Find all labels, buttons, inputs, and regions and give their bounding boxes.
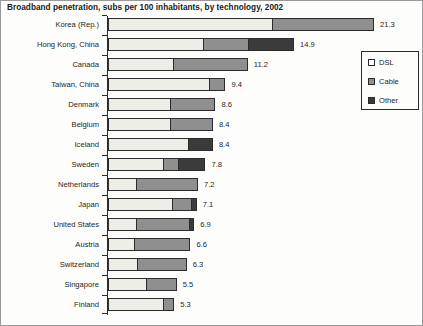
stacked-bar [108, 18, 374, 31]
category-label-netherlands: Netherlands [58, 181, 99, 189]
category-label-korea-rep: Korea (Rep.) [56, 21, 99, 29]
axis-tick [102, 75, 107, 76]
chart-bar-row: Korea (Rep.)21.3 [1, 18, 423, 31]
category-label-iceland: Iceland [75, 141, 100, 149]
bar-value-label: 21.3 [380, 21, 395, 29]
bar-value-label: 9.4 [231, 81, 242, 89]
category-label-switzerland: Switzerland [60, 261, 99, 269]
stacked-bar [108, 258, 187, 271]
chart-bar-row: Austria6.6 [1, 238, 423, 251]
bar-segment-cable [136, 179, 197, 190]
axis-tick [102, 95, 107, 96]
bar-value-label: 6.3 [193, 261, 204, 269]
bar-segment-other [188, 139, 212, 150]
bar-value-label: 6.9 [200, 221, 211, 229]
legend-swatch-cable-icon [368, 78, 375, 85]
stacked-bar [108, 158, 205, 171]
chart-bar-row: Switzerland6.3 [1, 258, 423, 271]
bar-value-label: 8.6 [221, 101, 232, 109]
bar-value-label: 5.5 [183, 281, 194, 289]
bar-value-label: 8.4 [219, 141, 230, 149]
bar-segment-cable [172, 199, 191, 210]
chart-bar-row: Belgium8.4 [1, 118, 423, 131]
axis-tick [102, 215, 107, 216]
stacked-bar [108, 298, 174, 311]
axis-tick [102, 255, 107, 256]
stacked-bar [108, 178, 198, 191]
bar-value-label: 6.6 [196, 241, 207, 249]
legend-label: Cable [379, 78, 399, 86]
axis-tick [102, 35, 107, 36]
bar-segment-other [248, 39, 293, 50]
stacked-bar [108, 238, 190, 251]
legend-label: DSL [379, 59, 394, 67]
legend-swatch-dsl-icon [368, 59, 375, 66]
axis-tick [102, 235, 107, 236]
stacked-bar [108, 278, 177, 291]
bar-value-label: 14.9 [300, 41, 315, 49]
category-label-japan: Japan [78, 201, 99, 209]
bar-segment-dsl [109, 19, 272, 30]
legend-swatch-other-icon [368, 97, 375, 104]
bar-segment-cable [134, 239, 189, 250]
bar-segment-dsl [109, 39, 203, 50]
bar-segment-dsl [109, 239, 134, 250]
stacked-bar [108, 78, 225, 91]
chart-legend: DSLCableOther [361, 51, 419, 110]
category-label-singapore: Singapore [64, 281, 99, 289]
bar-segment-dsl [109, 99, 170, 110]
bar-segment-cable [170, 119, 212, 130]
chart-bar-row: Singapore5.5 [1, 278, 423, 291]
chart-bar-row: Taiwan, China9.4 [1, 78, 423, 91]
axis-tick [102, 155, 107, 156]
legend-label: Other [379, 97, 398, 105]
bar-segment-other [189, 219, 194, 230]
category-label-canada: Canada [72, 61, 99, 69]
chart-bar-row: Sweden7.8 [1, 158, 423, 171]
chart-bar-row: Finland5.3 [1, 298, 423, 311]
legend-item-cable[interactable]: Cable [368, 78, 399, 86]
stacked-bar [108, 218, 194, 231]
category-label-hong-kong-china: Hong Kong, China [37, 41, 99, 49]
stacked-bar [108, 198, 197, 211]
category-label-taiwan-china: Taiwan, China [51, 81, 99, 89]
bar-segment-dsl [109, 179, 136, 190]
legend-item-dsl[interactable]: DSL [368, 59, 394, 67]
bar-segment-cable [272, 19, 373, 30]
bar-segment-dsl [109, 219, 136, 230]
bar-value-label: 7.2 [204, 181, 215, 189]
category-label-belgium: Belgium [72, 121, 99, 129]
axis-tick [102, 275, 107, 276]
bar-segment-dsl [109, 139, 188, 150]
axis-tick [102, 15, 107, 16]
legend-item-other[interactable]: Other [368, 97, 398, 105]
plot-area: Korea (Rep.)21.3Hong Kong, China14.9Cana… [1, 14, 423, 320]
axis-tick [102, 55, 107, 56]
axis-tick [102, 175, 107, 176]
bar-segment-cable [173, 59, 247, 70]
bar-value-label: 5.3 [180, 301, 191, 309]
bar-segment-cable [163, 299, 174, 310]
bar-segment-cable [209, 79, 225, 90]
chart-bar-row: Japan7.1 [1, 198, 423, 211]
bar-segment-cable [163, 159, 178, 170]
chart-bar-row: Hong Kong, China14.9 [1, 38, 423, 51]
bar-segment-cable [136, 219, 188, 230]
bar-segment-other [191, 199, 196, 210]
bar-value-label: 8.4 [219, 121, 230, 129]
stacked-bar [108, 58, 248, 71]
bar-segment-dsl [109, 119, 170, 130]
axis-tick [102, 115, 107, 116]
bar-value-label: 11.2 [254, 61, 268, 69]
stacked-bar [108, 38, 294, 51]
category-label-sweden: Sweden [72, 161, 99, 169]
bar-segment-cable [170, 99, 215, 110]
bar-segment-cable [137, 259, 186, 270]
stacked-bar [108, 118, 213, 131]
category-label-denmark: Denmark [68, 101, 99, 109]
bar-segment-dsl [109, 79, 209, 90]
chart-bar-row: Denmark8.6 [1, 98, 423, 111]
bar-segment-cable [203, 39, 248, 50]
category-label-finland: Finland [74, 301, 99, 309]
bar-segment-dsl [109, 59, 173, 70]
